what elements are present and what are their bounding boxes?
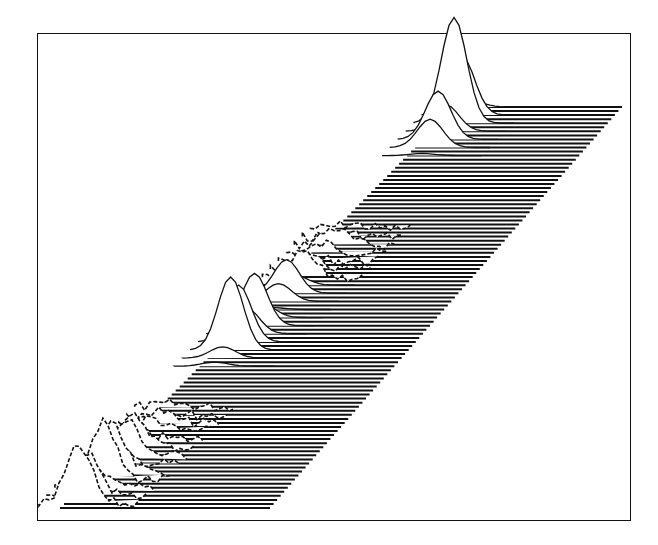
figure-caption [20, 538, 640, 545]
peak-ridge [39, 17, 530, 506]
peak-trace [135, 399, 235, 411]
peak-trace [382, 154, 482, 156]
surface-plot [0, 0, 658, 545]
